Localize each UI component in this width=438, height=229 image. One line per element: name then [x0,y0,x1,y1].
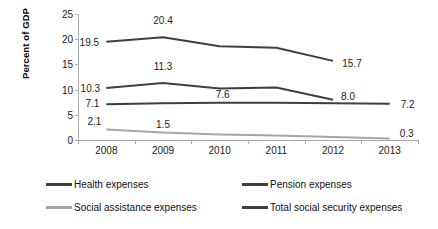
legend-line-icon [242,206,268,209]
data-point-label: 19.5 [80,36,99,47]
y-axis-title: Percent of GDP [20,0,31,99]
x-tick-label: 2011 [266,145,288,156]
legend-item-label: Total social security expenses [270,202,402,213]
y-tick-label: 15 [62,59,73,70]
plot-area: 0510152025 200820092010201120122013 10.3… [78,14,418,140]
x-tick-mark [361,140,362,144]
legend-item-social-assistance-expenses[interactable]: Social assistance expenses [46,202,242,213]
data-point-label: 7.1 [85,98,99,109]
x-tick-label: 2010 [209,145,231,156]
legend-line-icon [242,183,268,186]
x-tick-mark [191,140,192,144]
y-tick-label: 0 [67,135,73,146]
legend-row: Health expenses Pension expenses [46,173,426,196]
legend-item-pension-expenses[interactable]: Pension expenses [242,179,352,190]
x-tick-mark [418,140,419,144]
y-tick-label: 5 [67,109,73,120]
x-tick-label: 2013 [379,145,401,156]
legend-line-icon [46,183,72,186]
series-line [106,37,333,61]
chart-legend: Health expenses Pension expenses Social … [46,173,426,219]
legend-item-total-social-security-expenses[interactable]: Total social security expenses [242,202,402,213]
series-line [106,129,389,138]
x-tick-mark [135,140,136,144]
x-tick-mark [78,140,79,144]
legend-item-label: Health expenses [74,179,149,190]
data-point-label: 8.0 [341,90,355,101]
x-tick-label: 2012 [322,145,344,156]
x-tick-mark [248,140,249,144]
data-point-label: 20.4 [153,15,172,26]
legend-item-health-expenses[interactable]: Health expenses [46,179,242,190]
data-point-label: 10.3 [81,83,100,94]
line-chart: Percent of GDP 0510152025 20082009201020… [0,0,438,229]
data-point-label: 7.2 [401,98,415,109]
y-tick-label: 25 [62,9,73,20]
data-point-label: 2.1 [87,116,101,127]
legend-row: Social assistance expenses Total social … [46,196,426,219]
y-tick-label: 20 [62,34,73,45]
data-point-label: 11.3 [154,61,173,72]
series-lines [78,14,418,140]
data-point-label: 15.7 [342,57,361,68]
x-tick-label: 2009 [152,145,174,156]
data-point-label: 1.5 [156,119,170,130]
data-point-label: 0.3 [400,128,414,139]
legend-item-label: Pension expenses [270,179,352,190]
x-tick-mark [305,140,306,144]
data-point-label: 7.6 [216,88,230,99]
x-tick-label: 2008 [95,145,117,156]
legend-item-label: Social assistance expenses [74,202,197,213]
legend-line-icon [46,206,72,209]
y-tick-label: 10 [62,84,73,95]
series-line [106,103,389,105]
